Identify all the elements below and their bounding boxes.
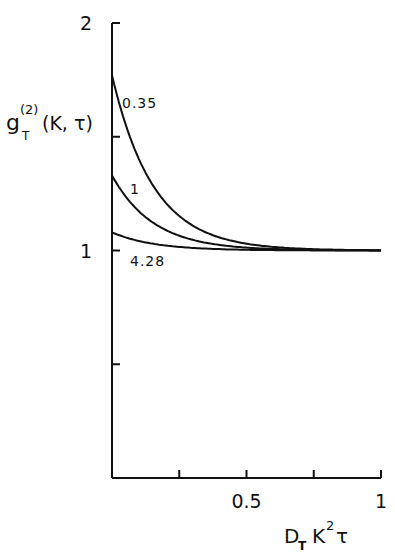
curve-1 [112, 175, 381, 250]
x-ticks [179, 470, 381, 478]
x-axis-title-tau: τ [336, 524, 348, 548]
y-ticks [112, 23, 120, 364]
y-axis-title-sub: T [21, 129, 30, 143]
correlation-chart: 12 0.51 0.3514.28 g (2) T (K, τ) D T K 2… [0, 0, 395, 560]
x-tick-labels: 0.51 [231, 490, 387, 512]
x-tick-label: 0.5 [231, 490, 261, 512]
y-axis-title: g (2) T (K, τ) [6, 102, 93, 143]
y-axis-title-g: g [6, 110, 20, 135]
curve-label: 4.28 [130, 253, 165, 269]
x-axis-title-k: K [312, 524, 326, 548]
y-tick-label: 1 [80, 240, 92, 262]
x-tick-label: 1 [375, 490, 387, 512]
y-tick-labels: 12 [80, 12, 92, 262]
curve-label: 0.35 [122, 95, 157, 111]
curve-label: 1 [130, 181, 140, 197]
y-tick-label: 2 [80, 12, 92, 34]
y-axis-title-args: (K, τ) [42, 112, 93, 134]
x-axis-title: D T K 2 τ [284, 518, 348, 553]
x-axis-title-sub: T [298, 539, 307, 553]
y-axis-title-sup: (2) [20, 102, 38, 117]
x-axis-title-sup: 2 [326, 518, 334, 533]
